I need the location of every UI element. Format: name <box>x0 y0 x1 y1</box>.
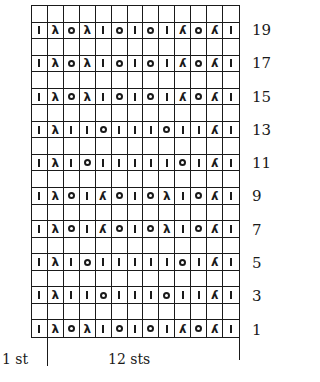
chart-cell <box>223 254 239 271</box>
knit-icon <box>38 225 40 233</box>
chart-cell <box>32 138 48 155</box>
chart-cell <box>32 39 48 56</box>
chart-cell <box>207 39 223 56</box>
chart-cell <box>207 304 223 321</box>
chart-cell <box>64 23 80 40</box>
chart-cell <box>191 271 207 288</box>
chart-cell <box>112 254 128 271</box>
chart-cell <box>143 171 159 188</box>
chart-cell <box>128 138 144 155</box>
chart-cell <box>159 122 175 139</box>
knit-icon <box>182 126 184 134</box>
chart-cell <box>207 271 223 288</box>
chart-cell: λ <box>48 188 64 205</box>
left-decrease-icon: λ <box>52 256 60 268</box>
chart-cell <box>64 320 80 337</box>
chart-cell <box>128 72 144 89</box>
chart-cell <box>223 89 239 106</box>
chart-cell <box>143 39 159 56</box>
chart-cell <box>32 254 48 271</box>
chart-cell <box>128 122 144 139</box>
chart-cell <box>143 138 159 155</box>
yarn-over-icon <box>100 126 107 133</box>
chart-cell <box>64 56 80 73</box>
knit-icon <box>70 291 72 299</box>
chart-cell <box>128 254 144 271</box>
yarn-over-icon <box>100 292 107 299</box>
chart-cell <box>112 238 128 255</box>
chart-cell <box>64 138 80 155</box>
chart-cell <box>223 105 239 122</box>
yarn-over-icon <box>147 225 154 232</box>
chart-cell <box>96 105 112 122</box>
chart-cell <box>112 320 128 337</box>
chart-cell <box>80 205 96 222</box>
knit-icon <box>102 26 104 34</box>
yarn-over-icon <box>68 60 75 67</box>
chart-cell: λ <box>207 155 223 172</box>
chart-cell <box>159 6 175 23</box>
chart-cell <box>223 56 239 73</box>
chart-cell: λ <box>207 122 223 139</box>
chart-cell <box>96 320 112 337</box>
yarn-over-icon <box>68 325 75 332</box>
knit-icon <box>150 126 152 134</box>
knit-icon <box>198 126 200 134</box>
chart-cell <box>175 138 191 155</box>
knit-icon <box>134 159 136 167</box>
chart-cell <box>80 122 96 139</box>
right-decrease-icon: λ <box>99 190 107 202</box>
knit-icon <box>166 159 168 167</box>
chart-cell <box>96 155 112 172</box>
knit-icon <box>134 126 136 134</box>
chart-cell <box>143 287 159 304</box>
chart-cell <box>143 155 159 172</box>
chart-cell <box>191 320 207 337</box>
knit-icon <box>38 291 40 299</box>
chart-cell: λ <box>48 23 64 40</box>
repeat-stitches-label: 12 sts <box>108 352 150 366</box>
row-number: 15 <box>252 90 271 105</box>
chart-cell <box>223 304 239 321</box>
chart-cell <box>143 122 159 139</box>
chart-cell <box>128 271 144 288</box>
chart-cell <box>159 89 175 106</box>
chart-cell <box>191 304 207 321</box>
chart-cell <box>96 23 112 40</box>
yarn-over-icon <box>179 259 186 266</box>
chart-cell <box>64 238 80 255</box>
chart-cell <box>64 205 80 222</box>
knit-icon <box>86 192 88 200</box>
chart-cell <box>32 221 48 238</box>
yarn-over-icon <box>163 126 170 133</box>
chart-cell <box>175 39 191 56</box>
chart-cell <box>223 188 239 205</box>
yarn-over-icon <box>195 192 202 199</box>
chart-cell <box>112 39 128 56</box>
chart-cell <box>96 205 112 222</box>
row-number: 7 <box>252 223 262 238</box>
chart-cell <box>159 287 175 304</box>
chart-cell <box>48 271 64 288</box>
chart-cell <box>128 304 144 321</box>
chart-cell <box>96 287 112 304</box>
chart-cell <box>112 72 128 89</box>
chart-cell <box>64 72 80 89</box>
chart-cell <box>96 56 112 73</box>
chart-cell <box>159 72 175 89</box>
knit-icon <box>70 126 72 134</box>
chart-cell <box>159 56 175 73</box>
chart-cell: λ <box>207 188 223 205</box>
right-decrease-icon: λ <box>211 289 219 301</box>
chart-cell <box>223 205 239 222</box>
yarn-over-icon <box>84 159 91 166</box>
chart-cell <box>159 320 175 337</box>
chart-cell <box>32 287 48 304</box>
yarn-over-icon <box>116 27 123 34</box>
chart-cell <box>207 171 223 188</box>
repeat-end-marker <box>239 338 240 360</box>
chart-cell <box>128 287 144 304</box>
row-number: 17 <box>252 56 271 71</box>
yarn-over-icon <box>147 60 154 67</box>
chart-cell <box>175 304 191 321</box>
